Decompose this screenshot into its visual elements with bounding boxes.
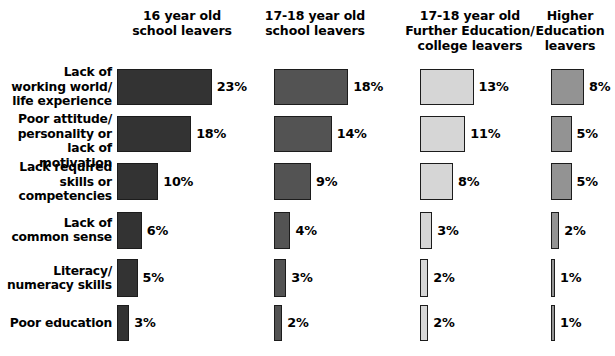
bar-value-s3-r2: 11% [470,127,500,140]
bar-value-s3-r4: 3% [437,224,458,237]
bar-s1-r4 [117,212,142,249]
bar-value-s4-r5: 1% [560,271,581,284]
bar-s3-r6 [420,305,428,341]
row-label-5: Literacy/ numeracy skills [0,264,112,293]
bar-s4-r3 [551,163,572,200]
bar-value-s2-r5: 3% [291,271,312,284]
bar-value-s1-r6: 3% [134,316,155,329]
bar-s1-r1 [117,69,212,105]
column-header-4: Higher Education leavers [485,8,615,53]
bar-s3-r3 [420,163,453,200]
bar-value-s2-r2: 14% [337,127,367,140]
bar-value-s2-r6: 2% [287,316,308,329]
row-label-4: Lack of common sense [0,216,112,245]
bar-value-s4-r2: 5% [577,127,598,140]
bar-s4-r2 [551,116,572,152]
bar-value-s2-r4: 4% [295,224,316,237]
bar-s1-r6 [117,305,129,341]
bar-s2-r3 [274,163,311,200]
bar-s4-r1 [551,69,584,105]
bar-s3-r5 [420,259,428,297]
row-label-1: Lack of working world/ life experience [0,65,112,108]
bar-value-s3-r3: 8% [458,175,479,188]
bar-value-s1-r3: 10% [163,175,193,188]
bar-value-s3-r6: 2% [433,316,454,329]
bar-value-s4-r6: 1% [560,316,581,329]
bar-s4-r6 [551,305,555,341]
bar-value-s3-r5: 2% [433,271,454,284]
bar-s4-r4 [551,212,559,249]
bar-value-s2-r3: 9% [316,175,337,188]
bar-s1-r5 [117,259,138,297]
bar-value-s4-r1: 8% [589,80,610,93]
bar-s1-r2 [117,116,191,152]
bar-value-s2-r1: 18% [353,80,383,93]
row-label-3: Lack required skills or competencies [0,160,112,203]
bar-s4-r5 [551,259,555,297]
bar-s2-r1 [274,69,348,105]
bar-s2-r4 [274,212,290,249]
bar-value-s1-r2: 18% [196,127,226,140]
bar-s3-r1 [420,69,474,105]
bar-s2-r6 [274,305,282,341]
column-header-2: 17-18 year old school leavers [230,8,400,38]
bar-s2-r2 [274,116,332,152]
bar-value-s4-r4: 2% [564,224,585,237]
bar-value-s1-r5: 5% [143,271,164,284]
bar-value-s1-r4: 6% [147,224,168,237]
bar-chart: 16 year old school leavers17-18 year old… [0,0,615,356]
bar-s3-r4 [420,212,432,249]
row-label-6: Poor education [0,316,112,330]
bar-value-s4-r3: 5% [577,175,598,188]
bar-value-s3-r1: 13% [479,80,509,93]
bar-value-s1-r1: 23% [217,80,247,93]
bar-s3-r2 [420,116,465,152]
bar-s1-r3 [117,163,158,200]
bar-s2-r5 [274,259,286,297]
